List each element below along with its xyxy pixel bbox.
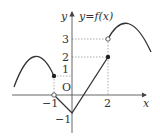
function-graph: y y=f(x) x O 3 2 1 −1 −1 2	[0, 0, 160, 137]
y-tick-1: 1	[62, 63, 69, 76]
origin-label: O	[62, 81, 71, 94]
function-label: y=f(x)	[78, 10, 113, 23]
open-point-2-3	[106, 37, 110, 41]
function-curve	[14, 23, 151, 113]
x-tick-neg1: −1	[42, 97, 58, 110]
y-axis-label: y	[60, 10, 68, 23]
y-tick-3: 3	[62, 33, 69, 46]
y-tick-neg1: −1	[55, 113, 71, 126]
filled-point-neg1-1	[52, 74, 56, 78]
x-axis-label: x	[143, 97, 150, 110]
filled-point-2-2	[106, 55, 110, 59]
x-tick-2: 2	[104, 97, 111, 110]
